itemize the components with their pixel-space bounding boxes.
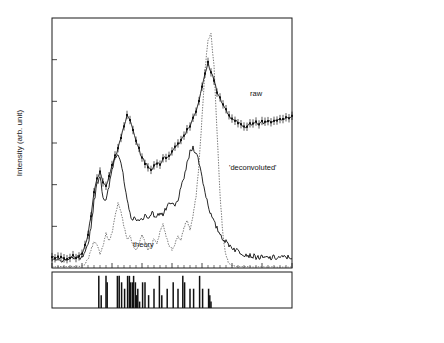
main-ylabel: Intensity (arb. unit) (15, 110, 24, 177)
data-point (186, 128, 188, 130)
scientific-figure: raw'deconvoluted'theoryIntensity (arb. u… (0, 0, 444, 343)
data-point (177, 142, 179, 144)
data-point (264, 121, 266, 123)
orbital-degeneracy-panel (52, 272, 292, 308)
data-point (222, 103, 224, 105)
data-point (69, 257, 71, 259)
data-point (108, 175, 110, 177)
data-point (249, 122, 251, 124)
data-point (174, 146, 176, 148)
data-point (117, 147, 119, 149)
data-point (234, 120, 236, 122)
data-point (54, 257, 56, 259)
data-point (267, 120, 269, 122)
data-point (225, 108, 227, 110)
annotation-theory: theory (133, 240, 154, 249)
data-point (270, 121, 272, 123)
data-point (168, 155, 170, 157)
data-point (96, 177, 98, 179)
data-point (51, 256, 53, 258)
data-point (99, 171, 101, 173)
data-point (81, 253, 83, 255)
data-point (171, 150, 173, 152)
data-point (111, 164, 113, 166)
data-point (258, 123, 260, 125)
data-point (87, 234, 89, 236)
data-point (252, 122, 254, 124)
data-point (153, 164, 155, 166)
data-point (210, 71, 212, 73)
data-point (123, 125, 125, 127)
data-point (192, 117, 194, 119)
data-point (159, 164, 161, 166)
data-point (285, 116, 287, 118)
data-point (195, 111, 197, 113)
data-point (126, 114, 128, 116)
data-point (78, 255, 80, 257)
data-point (150, 169, 152, 171)
data-point (183, 135, 185, 137)
data-point (114, 154, 116, 156)
data-point (276, 120, 278, 122)
data-point (138, 147, 140, 149)
data-point (246, 126, 248, 128)
data-point (129, 119, 131, 121)
data-point (63, 257, 65, 259)
data-point (144, 163, 146, 165)
data-point (105, 185, 107, 187)
data-point (219, 96, 221, 98)
data-point (189, 126, 191, 128)
data-point (165, 157, 167, 159)
data-point (255, 121, 257, 123)
data-point (75, 257, 77, 259)
data-point (231, 118, 233, 120)
data-point (162, 157, 164, 159)
data-point (93, 191, 95, 193)
data-point (279, 118, 281, 120)
data-point (102, 181, 104, 183)
data-point (261, 120, 263, 122)
data-point (198, 100, 200, 102)
annotation-raw: raw (250, 89, 263, 98)
data-point (213, 80, 215, 82)
data-point (90, 215, 92, 217)
degeneracy-panel-frame (52, 272, 292, 308)
data-point (60, 256, 62, 258)
data-point (237, 122, 239, 124)
data-point (132, 129, 134, 131)
data-point (66, 258, 68, 260)
data-point (291, 115, 293, 117)
data-point (204, 73, 206, 75)
data-point (228, 114, 230, 116)
data-point (72, 254, 74, 256)
data-point (156, 163, 158, 165)
data-point (201, 86, 203, 88)
data-point (57, 256, 59, 258)
data-point (243, 126, 245, 128)
data-point (273, 120, 275, 122)
data-point (147, 166, 149, 168)
data-point (240, 123, 242, 125)
data-point (120, 137, 122, 139)
main-panel-frame (52, 18, 292, 268)
data-point (282, 118, 284, 120)
main-spectrum-panel: raw'deconvoluted'theory (51, 18, 293, 268)
data-point (216, 92, 218, 94)
data-point (84, 244, 86, 246)
data-point (180, 139, 182, 141)
data-point (135, 140, 137, 142)
data-point (288, 117, 290, 119)
data-point (141, 157, 143, 159)
figure-root: raw'deconvoluted'theoryIntensity (arb. u… (0, 0, 444, 343)
data-point (207, 61, 209, 63)
annotation-deconvoluted: 'deconvoluted' (229, 163, 277, 172)
